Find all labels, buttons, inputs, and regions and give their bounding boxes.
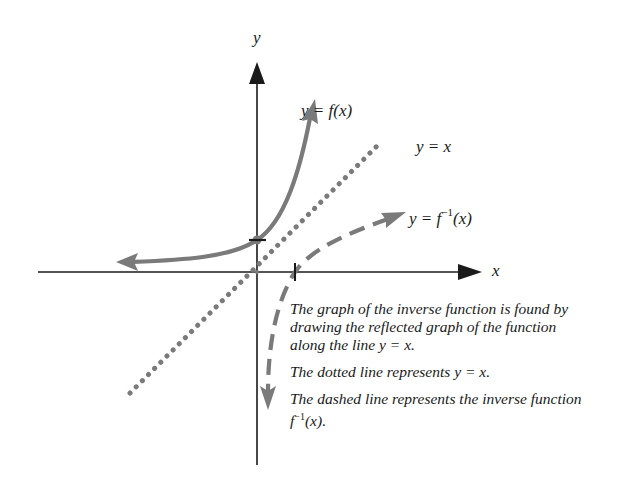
inverse-label-prefix: y = f <box>409 209 441 228</box>
function-curve <box>116 99 318 271</box>
x-axis <box>38 264 482 280</box>
y-axis-label: y <box>253 28 261 48</box>
caption-paragraph-3: The dashed line represents the inverse f… <box>290 390 590 430</box>
diagram-caption: The graph of the inverse function is fou… <box>290 300 590 439</box>
caption-p3-suffix: (x). <box>305 412 326 429</box>
caption-p3-prefix: The dashed line represents the inverse f… <box>290 390 582 429</box>
caption-paragraph-2: The dotted line represents y = x. <box>290 363 590 381</box>
inverse-function-label: y = f−1(x) <box>409 207 472 229</box>
inverse-label-sup: −1 <box>441 206 453 218</box>
x-axis-arrow-icon <box>458 264 482 280</box>
caption-paragraph-1: The graph of the inverse function is fou… <box>290 300 590 354</box>
y-axis-arrow-icon <box>249 62 265 84</box>
x-axis-label: x <box>492 261 500 281</box>
function-label: y = f(x) <box>301 101 352 121</box>
identity-label: y = x <box>416 137 451 157</box>
inverse-label-suffix: (x) <box>453 209 472 228</box>
origin-point <box>255 270 259 274</box>
caption-p3-sup: −1 <box>294 411 305 422</box>
